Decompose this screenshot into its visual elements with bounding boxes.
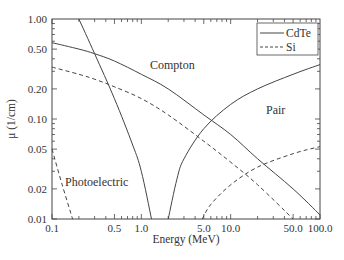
y-tick-label: 0.10 [28, 113, 48, 125]
x-axis-title: Energy (MeV) [152, 233, 219, 246]
annotation-photoelectric: Photoelectric [65, 175, 128, 189]
annotation-compton: Compton [150, 58, 195, 72]
si-pair-curve [202, 147, 320, 219]
x-tick-label: 10.0 [221, 222, 241, 234]
y-tick-label: 0.20 [28, 83, 48, 95]
x-tick-label: 0.1 [45, 222, 59, 234]
annotation-pair: Pair [266, 103, 285, 117]
x-tick-label: 0.5 [108, 222, 122, 234]
legend-label-si: Si [286, 41, 296, 53]
cdte-pair-curve [168, 65, 320, 219]
y-tick-label: 0.05 [28, 143, 48, 155]
y-tick-label: 0.02 [28, 183, 47, 195]
cdte-photoelectric-curve [79, 19, 152, 219]
y-axis-title: μ (1/cm) [5, 99, 18, 139]
y-tick-labels: 0.010.020.050.100.200.501.00 [28, 13, 48, 225]
legend: CdTe Si [257, 23, 318, 55]
y-tick-label: 0.01 [28, 213, 47, 225]
y-tick-label: 0.50 [28, 43, 48, 55]
x-tick-label: 50.0 [283, 222, 303, 234]
attenuation-chart: 0.10.51.05.010.050.0100.0 0.010.020.050.… [0, 0, 344, 260]
legend-label-cdte: CdTe [286, 27, 311, 39]
y-tick-label: 1.00 [28, 13, 48, 25]
x-tick-label: 100.0 [308, 222, 333, 234]
x-tick-label: 1.0 [134, 222, 148, 234]
